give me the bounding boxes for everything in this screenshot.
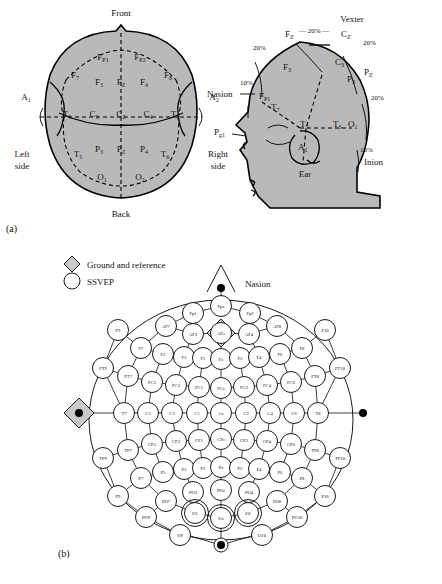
electrode-label: AF4 xyxy=(245,332,254,337)
electrode-f2[interactable]: F2 xyxy=(230,348,251,369)
electrode-link xyxy=(156,364,159,372)
electrode-ft10[interactable]: FT10 xyxy=(330,358,351,379)
electrode-link xyxy=(173,423,174,430)
electrode-link xyxy=(285,508,289,511)
electrode-fp2[interactable]: Fp2 xyxy=(240,303,261,324)
electrode-p2[interactable]: P2 xyxy=(230,458,251,479)
electrode-tp9[interactable]: TP9 xyxy=(93,448,114,469)
electrode-cz[interactable]: Cz xyxy=(211,403,232,424)
electrode-fc5[interactable]: FC5 xyxy=(142,372,163,393)
electrode-o2[interactable]: O2 xyxy=(235,500,262,527)
electrode-label: F5 xyxy=(161,352,167,357)
electrode-c2[interactable]: C2 xyxy=(236,403,257,424)
electrode-c5[interactable]: C5 xyxy=(138,403,159,424)
electrode-t7[interactable]: T7 xyxy=(114,403,135,424)
electrode-p7[interactable]: P7 xyxy=(131,468,152,489)
electrode-fpz[interactable]: Fpz xyxy=(211,296,232,317)
electrode-o1[interactable]: O1 xyxy=(182,500,209,527)
electrode-link xyxy=(149,423,150,433)
electrode-f4[interactable]: F4 xyxy=(249,347,270,368)
electrode-f8[interactable]: F8 xyxy=(292,338,313,359)
electrode-p9[interactable]: P9 xyxy=(108,486,129,507)
electrode-c6[interactable]: C6 xyxy=(284,403,305,424)
electrode-label: CP6 xyxy=(287,442,296,447)
electrode-fc4[interactable]: FC4 xyxy=(257,375,278,396)
electrode-label: FC6 xyxy=(287,380,296,385)
label-pct-inion: 10% xyxy=(360,146,373,154)
electrode-po9[interactable]: PO9 xyxy=(136,507,157,528)
electrode-cp3[interactable]: CP3 xyxy=(166,431,187,452)
electrode-af3[interactable]: AF3 xyxy=(183,324,204,345)
electrode-o10[interactable]: O10 xyxy=(252,525,273,546)
electrode-c4[interactable]: C4 xyxy=(260,403,281,424)
electrode-p8[interactable]: P8 xyxy=(292,468,313,489)
electrode-tp10[interactable]: TP10 xyxy=(330,448,351,469)
electrode-f6[interactable]: F6 xyxy=(270,344,291,365)
label-pct-left-upper: 20% xyxy=(253,44,266,52)
electrode-fz[interactable]: Fz xyxy=(211,349,232,370)
electrode-p6[interactable]: P6 xyxy=(270,462,291,483)
electrode-fc1[interactable]: FC1 xyxy=(189,377,210,398)
electrode-oz[interactable]: Oz xyxy=(208,505,235,532)
electrode-fcz[interactable]: FCz xyxy=(211,378,232,399)
electrode-ft9[interactable]: FT9 xyxy=(93,358,114,379)
electrode-link xyxy=(241,368,242,376)
electrode-poz[interactable]: POz xyxy=(211,480,232,501)
electrode-o9[interactable]: O9 xyxy=(170,525,191,546)
electrode-ft7[interactable]: FT7 xyxy=(118,366,139,387)
electrode-f10[interactable]: F10 xyxy=(315,320,336,341)
inion-dot xyxy=(217,541,225,549)
electrode-c1[interactable]: C1 xyxy=(187,403,208,424)
electrode-afz[interactable]: AFz xyxy=(207,319,235,347)
electrode-p4[interactable]: P4 xyxy=(249,459,270,480)
electrode-fc6[interactable]: FC6 xyxy=(281,372,302,393)
electrode-link xyxy=(253,344,255,348)
electrode-cp6[interactable]: CP6 xyxy=(281,434,302,455)
electrode-link xyxy=(138,379,142,380)
electrode-label: CP2 xyxy=(240,438,249,443)
electrode-af8[interactable]: AF8 xyxy=(267,316,288,337)
electrode-link xyxy=(259,329,267,331)
electrode-label: PO10 xyxy=(292,515,303,520)
electrode-af4[interactable]: AF4 xyxy=(239,324,260,345)
electrode-af7[interactable]: AF7 xyxy=(156,316,177,337)
electrode-link xyxy=(125,423,127,439)
electrode-pz[interactable]: Pz xyxy=(211,457,232,478)
electrode-p10[interactable]: P10 xyxy=(315,486,336,507)
electrode-fc2[interactable]: FC2 xyxy=(234,377,255,398)
electrode-f3[interactable]: F3 xyxy=(174,347,195,368)
electrode-label: PO7 xyxy=(162,499,171,504)
electrode-link xyxy=(268,423,269,430)
electrode-cp2[interactable]: CP2 xyxy=(234,430,255,451)
electrode-t8[interactable]: T8 xyxy=(308,403,329,424)
legend-circle-icon xyxy=(64,273,80,289)
electrode-label: Fpz xyxy=(218,304,225,309)
electrode-link xyxy=(325,371,330,373)
electrode-tp8[interactable]: TP8 xyxy=(305,440,326,461)
electrode-cpz[interactable]: CPz xyxy=(211,429,232,450)
label-inion: Inion xyxy=(364,157,383,167)
electrode-fc3[interactable]: FC3 xyxy=(166,375,187,396)
electrode-cp4[interactable]: CP4 xyxy=(257,431,278,452)
electrode-label: Pz xyxy=(219,465,224,470)
electrode-fp1[interactable]: Fp1 xyxy=(183,303,204,324)
electrode-label: O10 xyxy=(258,533,267,538)
electrode-po8[interactable]: PO8 xyxy=(267,491,288,512)
electrode-f7[interactable]: F7 xyxy=(131,338,152,359)
electrode-f5[interactable]: F5 xyxy=(153,344,174,365)
electrode-p5[interactable]: P5 xyxy=(153,462,174,483)
electrode-tp7[interactable]: TP7 xyxy=(118,440,139,461)
electrode-po10[interactable]: PO10 xyxy=(287,507,308,528)
electrode-cp5[interactable]: CP5 xyxy=(142,434,163,455)
electrode-ft8[interactable]: FT8 xyxy=(305,366,326,387)
label-nasion-panelb: Nasion xyxy=(245,279,271,289)
electrode-c3[interactable]: C3 xyxy=(162,403,183,424)
electrode-link xyxy=(113,453,118,455)
label-a1: A1 xyxy=(21,92,31,103)
electrode-cp1[interactable]: CP1 xyxy=(189,430,210,451)
electrode-label: CPz xyxy=(217,437,225,442)
electrode-link xyxy=(203,309,211,311)
electrode-f9[interactable]: F9 xyxy=(108,320,129,341)
electrode-po7[interactable]: PO7 xyxy=(156,491,177,512)
electrode-p3[interactable]: P3 xyxy=(174,459,195,480)
